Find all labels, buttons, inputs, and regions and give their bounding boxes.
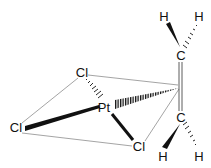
atom-label-h1: H — [159, 9, 168, 24]
pt-ethylene-hashed-bond — [115, 88, 179, 109]
atom-label-cl-left: Cl — [10, 120, 22, 135]
atom-label-h4: H — [194, 149, 203, 164]
c-h-hashed-top-right — [183, 25, 197, 48]
pt-cl-left-wedge-bond — [25, 105, 100, 131]
atom-label-cl-top: Cl — [76, 65, 88, 80]
atom-label-h3: H — [158, 149, 167, 164]
atom-label-pt: Pt — [98, 100, 111, 115]
c-h-hashed-bottom-right — [183, 122, 196, 145]
atom-label-cl-bottom: Cl — [133, 139, 145, 154]
atom-label-c-lower: C — [176, 110, 185, 125]
pt-cl-bottom-bond — [112, 114, 133, 140]
molecule-diagram: Pt Cl Cl Cl C C H H H H — [0, 0, 211, 168]
c-h-wedge-bottom-left — [162, 124, 180, 149]
atom-label-h2: H — [194, 9, 203, 24]
pt-cl-top-hashed-bond — [86, 79, 103, 98]
c-h-wedge-top-left — [166, 22, 180, 47]
c-c-double-bond — [179, 62, 182, 111]
atom-label-c-upper: C — [176, 48, 185, 63]
